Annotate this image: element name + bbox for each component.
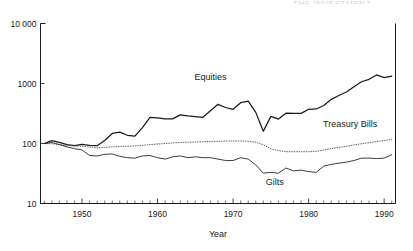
- x-tick-label: 1990: [375, 209, 394, 219]
- y-axis-ticks: 10100100010 000: [11, 19, 45, 209]
- x-axis-title: Year: [209, 229, 227, 239]
- series-label-gilts: Gilts: [266, 177, 285, 187]
- x-tick-label: 1980: [299, 209, 318, 219]
- series-label-treasury-bills: Treasury Bills: [323, 119, 378, 129]
- y-tick-label: 1000: [18, 79, 37, 89]
- axis-titles: Year: [209, 229, 227, 239]
- series-line-equities: [44, 75, 391, 146]
- x-tick-label: 1960: [148, 209, 167, 219]
- x-tick-label: 1950: [73, 209, 92, 219]
- y-tick-label: 10: [27, 199, 37, 209]
- y-tick-label: 10 000: [11, 19, 37, 29]
- y-tick-label: 100: [22, 139, 36, 149]
- line-chart: 10100100010 000 19501960197019801990 Equ…: [0, 0, 413, 251]
- x-tick-label: 1970: [224, 209, 243, 219]
- series-label-equities: Equities: [194, 72, 227, 82]
- chart-figure: THE INVESTMENT 10100100010 000 195019601…: [0, 0, 413, 251]
- x-axis-ticks: 19501960197019801990: [44, 199, 394, 219]
- chart-axes: [41, 24, 396, 204]
